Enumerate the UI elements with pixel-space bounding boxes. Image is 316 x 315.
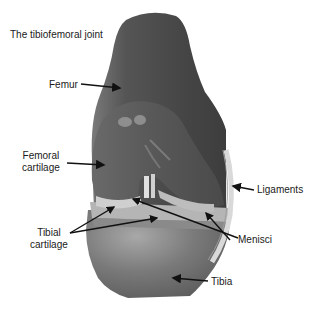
label-menisci: Menisci (238, 234, 272, 246)
label-tibial-cartilage-line2: cartilage (30, 239, 68, 251)
label-femoral-cartilage: Femoral cartilage (22, 150, 60, 174)
label-tibia: Tibia (211, 276, 232, 288)
diagram-title: The tibiofemoral joint (10, 29, 103, 41)
diagram: The tibiofemoral joint Femur Femoral car… (0, 0, 316, 315)
label-tibial-cartilage: Tibial cartilage (30, 227, 68, 251)
label-tibial-cartilage-line1: Tibial (30, 227, 68, 239)
ligaments-arrow (233, 186, 254, 190)
label-femur: Femur (49, 79, 78, 91)
label-femoral-cartilage-line1: Femoral (22, 150, 60, 162)
label-femoral-cartilage-line2: cartilage (22, 162, 60, 174)
label-ligaments: Ligaments (257, 184, 303, 196)
